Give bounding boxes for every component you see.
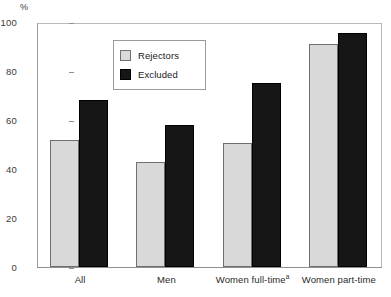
y-axis-unit-label: % bbox=[20, 2, 28, 12]
bar-excluded-all bbox=[79, 100, 108, 267]
legend-item-excluded: Excluded bbox=[120, 65, 199, 84]
bar-chart: % 020406080100 AllMenWomen full-timeaWom… bbox=[0, 0, 391, 297]
y-axis-tick-label: 100 bbox=[0, 17, 17, 28]
y-axis-tick-label: 80 bbox=[0, 66, 17, 77]
x-axis-label-men: Men bbox=[123, 274, 209, 285]
y-axis-tick-label: 20 bbox=[0, 213, 17, 224]
y-axis-tick-mark bbox=[69, 72, 74, 73]
x-axis-label-women-full-time: Women full-timea bbox=[210, 274, 296, 285]
y-axis-tick-label: 0 bbox=[0, 262, 17, 273]
x-axis-label-footnote-marker: a bbox=[286, 273, 290, 280]
bar-rejectors-women-full-time bbox=[223, 143, 252, 267]
x-axis-label-all: All bbox=[37, 274, 123, 285]
bar-rejectors-all bbox=[50, 140, 79, 267]
bar-rejectors-men bbox=[136, 162, 165, 267]
bar-excluded-men bbox=[165, 125, 194, 267]
bar-excluded-women-full-time bbox=[252, 83, 281, 267]
plot-area: 020406080100 bbox=[37, 23, 382, 268]
y-axis-tick-mark bbox=[69, 121, 74, 122]
bar-excluded-women-part-time bbox=[338, 33, 367, 267]
x-axis-label-women-part-time: Women part-time bbox=[296, 274, 382, 285]
legend: RejectorsExcluded bbox=[113, 40, 206, 90]
legend-label: Rejectors bbox=[138, 50, 179, 61]
legend-item-rejectors: Rejectors bbox=[120, 46, 199, 65]
y-axis-tick-label: 40 bbox=[0, 164, 17, 175]
y-axis-tick-mark bbox=[69, 23, 74, 24]
legend-label: Excluded bbox=[138, 69, 178, 80]
y-axis-tick-label: 60 bbox=[0, 115, 17, 126]
bar-rejectors-women-part-time bbox=[309, 44, 338, 267]
y-axis-tick-mark bbox=[69, 268, 74, 269]
legend-swatch-excluded bbox=[120, 69, 131, 80]
legend-swatch-rejectors bbox=[120, 50, 131, 61]
